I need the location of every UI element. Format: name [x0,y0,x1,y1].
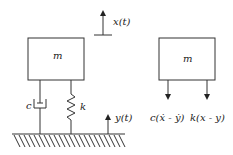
ground-hatching [14,135,125,147]
mass-label: m [53,50,62,61]
spring-label: k [80,101,86,112]
damper-force-label: c(ẋ - ẏ) [150,112,185,123]
free-body-diagram: m c(ẋ - ẏ) k(x - y) [150,38,225,123]
spring-coil [67,80,75,134]
spring: k [67,80,86,134]
damper-label: c [26,100,32,111]
base-excited-system: m x(t) c k y(t) [12,13,133,147]
base-excitation-label: y(t) [114,112,133,123]
spring-force-label: k(x - y) [190,112,225,123]
diagram-canvas: m x(t) c k y(t) [0,0,233,155]
fbd-mass-label: m [183,53,192,64]
damper: c [26,80,46,134]
displacement-indicator: x(t) [94,13,131,35]
ground [12,134,125,147]
base-excitation-indicator: y(t) [108,112,133,134]
displacement-label: x(t) [113,16,131,27]
